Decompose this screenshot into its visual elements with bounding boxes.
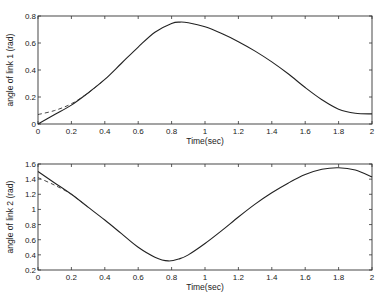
x-tick-label: 0.4 <box>99 273 111 282</box>
x-tick-label: 0 <box>36 273 41 282</box>
x-tick-label: 0.6 <box>133 127 145 136</box>
y-tick-label: 1.2 <box>25 190 37 199</box>
plot-link2: 00.20.40.60.811.21.41.61.820.20.40.60.81… <box>5 160 375 292</box>
x-axis-label: Time(sec) <box>186 136 224 146</box>
y-tick-label: 0.2 <box>25 93 37 102</box>
y-tick-label: 0 <box>32 120 37 129</box>
x-tick-label: 0.2 <box>66 273 78 282</box>
series-desired-line <box>38 178 88 208</box>
x-tick-label: 2 <box>370 273 375 282</box>
series-actual-line <box>38 168 372 261</box>
x-tick-label: 0.6 <box>133 273 145 282</box>
x-tick-label: 1.8 <box>333 273 345 282</box>
y-tick-label: 1 <box>32 205 37 214</box>
x-tick-label: 1 <box>203 127 208 136</box>
y-tick-label: 0.6 <box>25 39 37 48</box>
plot-frame <box>38 16 372 124</box>
x-tick-label: 0 <box>36 127 41 136</box>
x-tick-label: 1.2 <box>233 127 245 136</box>
y-tick-label: 0.4 <box>25 251 37 260</box>
x-tick-label: 0.2 <box>66 127 78 136</box>
x-tick-label: 1.6 <box>300 127 312 136</box>
x-tick-label: 0.4 <box>99 127 111 136</box>
x-tick-label: 1 <box>203 273 208 282</box>
plot-frame <box>38 164 372 270</box>
series-desired-line <box>38 79 105 114</box>
x-tick-label: 1.6 <box>300 273 312 282</box>
y-axis-label: angle of link 1 (rad) <box>5 33 15 106</box>
x-tick-label: 1.8 <box>333 127 345 136</box>
x-tick-label: 1.4 <box>266 127 278 136</box>
y-tick-label: 1.4 <box>25 175 37 184</box>
y-tick-label: 0.4 <box>25 66 37 75</box>
plot-link1: 00.20.40.60.811.21.41.61.8200.20.40.60.8… <box>5 12 375 146</box>
chart-canvas: 00.20.40.60.811.21.41.61.8200.20.40.60.8… <box>0 0 386 301</box>
x-tick-label: 0.8 <box>166 273 178 282</box>
series-actual-line <box>38 22 372 124</box>
x-axis-label: Time(sec) <box>186 282 224 292</box>
y-axis-label: angle of link 2 (rad) <box>5 180 15 253</box>
y-tick-label: 0.8 <box>25 221 37 230</box>
x-tick-label: 2 <box>370 127 375 136</box>
y-tick-label: 1.6 <box>25 160 37 169</box>
x-tick-label: 1.2 <box>233 273 245 282</box>
y-tick-label: 0.6 <box>25 236 37 245</box>
y-tick-label: 0.8 <box>25 12 37 21</box>
x-tick-label: 0.8 <box>166 127 178 136</box>
y-tick-label: 0.2 <box>25 266 37 275</box>
x-tick-label: 1.4 <box>266 273 278 282</box>
